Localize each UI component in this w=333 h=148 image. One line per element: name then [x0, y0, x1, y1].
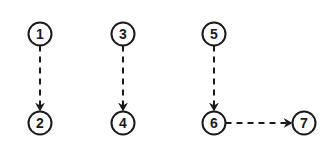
node-7: 7: [293, 112, 316, 135]
node-label: 2: [36, 115, 44, 131]
graph-diagram: 1234567: [0, 0, 333, 148]
node-label: 7: [300, 115, 308, 131]
graph-svg: 1234567: [0, 0, 333, 148]
node-label: 5: [210, 26, 218, 42]
node-1: 1: [29, 23, 52, 46]
node-label: 4: [119, 115, 127, 131]
node-label: 1: [36, 26, 44, 42]
node-2: 2: [29, 112, 52, 135]
edges: [40, 46, 292, 124]
node-6: 6: [203, 112, 226, 135]
node-4: 4: [112, 112, 135, 135]
node-3: 3: [112, 23, 135, 46]
node-5: 5: [203, 23, 226, 46]
node-label: 6: [210, 115, 218, 131]
node-label: 3: [119, 26, 127, 42]
nodes: 1234567: [29, 23, 316, 135]
